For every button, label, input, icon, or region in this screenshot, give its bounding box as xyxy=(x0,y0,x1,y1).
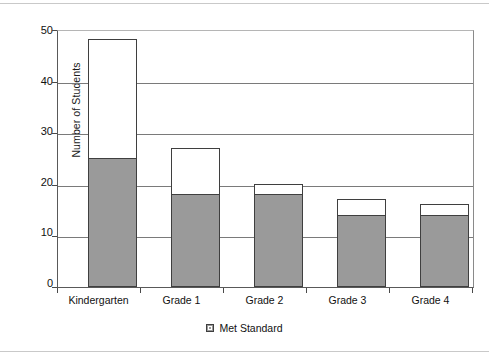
x-label-kindergarten: Kindergarten xyxy=(57,294,140,306)
y-tick-label-30: 30 xyxy=(27,126,53,137)
x-axis-labels: Kindergarten Grade 1 Grade 2 Grade 3 Gra… xyxy=(57,294,474,310)
legend-swatch-met-standard xyxy=(206,324,214,332)
chart-legend: Met Standard xyxy=(0,322,489,334)
x-label-grade-4: Grade 4 xyxy=(389,294,472,306)
bar-grade-2[interactable] xyxy=(254,184,303,287)
x-tickmark-4 xyxy=(389,288,390,293)
bar-kindergarten[interactable] xyxy=(88,39,137,287)
bar-grade-4[interactable] xyxy=(420,204,469,287)
x-label-grade-1: Grade 1 xyxy=(140,294,223,306)
bar-grade-4-met xyxy=(420,215,469,287)
x-tickmark-1 xyxy=(140,288,141,293)
x-tickmark-0 xyxy=(57,288,58,293)
x-label-grade-3: Grade 3 xyxy=(306,294,389,306)
chart-plot-area xyxy=(57,30,474,288)
page-top-rule xyxy=(0,3,489,4)
chart-page: Number of Students 50 40 30 20 10 0 xyxy=(0,0,489,355)
x-tickmark-5 xyxy=(472,288,473,293)
bar-kindergarten-met xyxy=(88,158,137,287)
page-bottom-rule xyxy=(0,351,489,352)
y-tick-label-40: 40 xyxy=(27,76,53,87)
x-tickmark-3 xyxy=(306,288,307,293)
y-tick-label-50: 50 xyxy=(27,25,53,36)
bar-grade-2-met xyxy=(254,194,303,287)
plot-canvas xyxy=(58,31,473,287)
bar-grade-3[interactable] xyxy=(337,199,386,287)
y-tick-label-10: 10 xyxy=(27,227,53,238)
bar-grade-1-met xyxy=(171,194,220,287)
x-tickmark-2 xyxy=(223,288,224,293)
y-axis-tick-labels: 50 40 30 20 10 0 xyxy=(23,30,53,288)
legend-label-met-standard: Met Standard xyxy=(219,322,282,334)
y-tick-label-0: 0 xyxy=(27,278,53,289)
bar-grade-1[interactable] xyxy=(171,148,220,287)
bar-grade-3-met xyxy=(337,215,386,287)
x-label-grade-2: Grade 2 xyxy=(223,294,306,306)
y-tick-label-20: 20 xyxy=(27,177,53,188)
